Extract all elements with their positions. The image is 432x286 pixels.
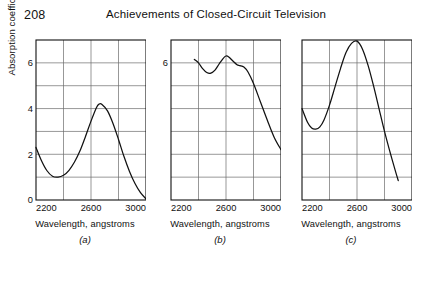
x-tick-label: 2200: [302, 203, 323, 213]
x-tick-label: 3000: [391, 203, 412, 213]
figure-page: 208 Achievements of Closed-Circuit Telev…: [0, 0, 432, 286]
chart-panel-b: 6220026003000Wavelength, angstroms(b): [159, 30, 281, 216]
data-curve: [302, 41, 398, 181]
y-tick-label: 2: [28, 150, 33, 160]
x-tick-label: 3000: [125, 203, 146, 213]
x-axis-title: Wavelength, angstroms: [24, 219, 146, 229]
x-tick-label: 3000: [260, 203, 281, 213]
panel-caption: (a): [24, 234, 146, 245]
x-axis-title: Wavelength, angstroms: [290, 219, 412, 229]
y-tick-label: 6: [28, 58, 33, 68]
chart-panel-c: 220026003000Wavelength, angstroms(c): [290, 30, 412, 216]
chart-panel-a: 0246220026003000Wavelength, angstroms(a): [24, 30, 146, 216]
y-tick-label: 0: [28, 195, 33, 205]
chart-svg: 6220026003000: [159, 30, 281, 216]
y-tick-label: 6: [163, 58, 168, 68]
x-axis-title: Wavelength, angstroms: [159, 219, 281, 229]
x-tick-label: 2200: [171, 203, 192, 213]
page-title: Achievements of Closed-Circuit Televisio…: [0, 8, 432, 20]
running-head: 208 Achievements of Closed-Circuit Telev…: [0, 8, 432, 24]
x-tick-label: 2600: [81, 203, 102, 213]
panel-caption: (c): [290, 234, 412, 245]
x-tick-label: 2200: [36, 203, 57, 213]
y-tick-label: 4: [28, 104, 33, 114]
panel-caption: (b): [159, 234, 281, 245]
chart-svg: 220026003000: [290, 30, 412, 216]
y-axis-title: Absorption coefficient, relative units: [6, 0, 20, 84]
data-curve: [194, 56, 281, 150]
chart-svg: 0246220026003000: [24, 30, 146, 216]
figure-body: Absorption coefficient, relative units 0…: [0, 30, 432, 286]
x-tick-label: 2600: [216, 203, 237, 213]
x-tick-label: 2600: [347, 203, 368, 213]
